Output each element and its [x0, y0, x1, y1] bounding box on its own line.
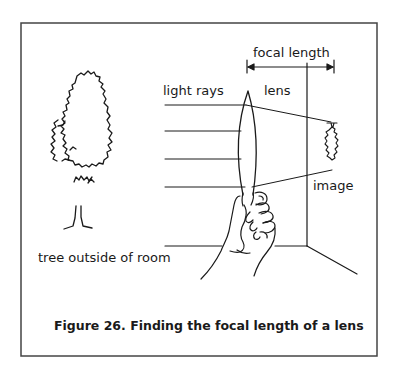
figure-container: focal length light rays lens image tree … [0, 0, 395, 371]
tree-illustration [51, 71, 112, 229]
image-label: image [313, 178, 354, 193]
figure-caption: Figure 26. Finding the focal length of a… [54, 318, 364, 333]
inverted-tree-image [325, 123, 338, 160]
focal-length-label: focal length [253, 45, 330, 60]
lens-label: lens [264, 83, 291, 98]
focal-length-diagram: focal length light rays lens image tree … [0, 0, 395, 371]
tree-label: tree outside of room [38, 250, 171, 265]
hand-illustration [201, 192, 275, 279]
focal-length-dimension [247, 60, 334, 73]
light-rays-label: light rays [163, 83, 224, 98]
